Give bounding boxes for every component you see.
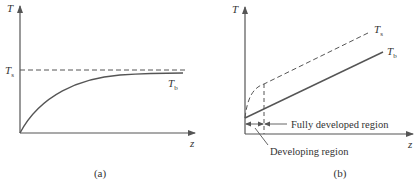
- x-axis-label: z: [189, 137, 195, 149]
- panel-a: T z Ts Tb (a): [5, 2, 195, 180]
- bulk-temp-line: [245, 52, 383, 118]
- bulk-temp-curve: [20, 73, 183, 133]
- caption-b: (b): [334, 167, 347, 180]
- caption-a: (a): [94, 167, 107, 180]
- developing-label: Developing region: [270, 146, 349, 157]
- x-axis-label: z: [407, 138, 413, 150]
- developing-leader: [255, 128, 268, 145]
- surface-temp-label: Ts: [5, 64, 14, 79]
- bulk-temp-label: Tb: [168, 77, 178, 92]
- surface-temp-label: Ts: [374, 23, 383, 38]
- bulk-temp-label: Tb: [387, 45, 397, 60]
- y-axis-label: T: [232, 3, 239, 15]
- fully-developed-label: Fully developed region: [291, 119, 389, 130]
- diagram: T z Ts Tb (a) T z Ts Tb Fully developed …: [0, 0, 415, 182]
- panel-b: T z Ts Tb Fully developed region Develop…: [232, 3, 413, 180]
- y-axis-label: T: [7, 2, 14, 14]
